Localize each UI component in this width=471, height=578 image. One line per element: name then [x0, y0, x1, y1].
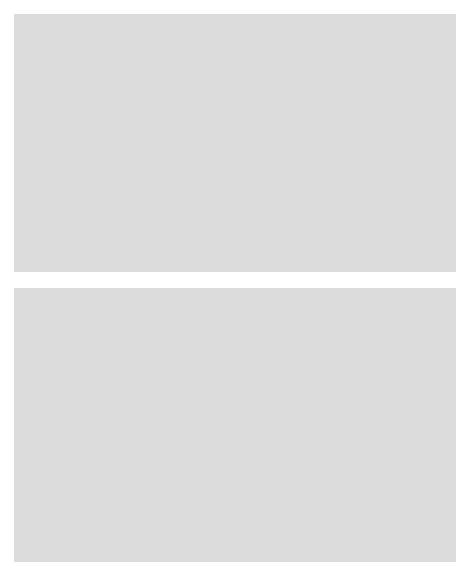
bottom-scatter-plot [14, 288, 456, 562]
top-scatter-plot [14, 14, 456, 272]
figure-page [0, 0, 471, 578]
bottom-chart-panel [14, 288, 456, 562]
top-chart-panel [14, 14, 456, 272]
